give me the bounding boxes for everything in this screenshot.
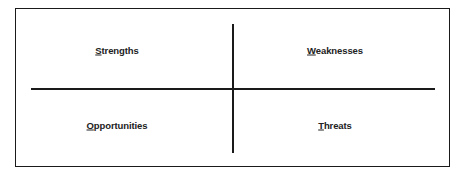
- quadrant-label-rest: eaknesses: [316, 45, 363, 56]
- quadrant-strengths: Strengths: [95, 45, 138, 56]
- quadrant-weaknesses: Weaknesses: [307, 45, 363, 56]
- access-key-w: W: [307, 45, 316, 56]
- quadrant-label-rest: trengths: [102, 45, 139, 56]
- quadrant-opportunities: Opportunities: [87, 120, 148, 131]
- quadrant-threats: Threats: [318, 120, 352, 131]
- horizontal-divider: [31, 88, 435, 90]
- quadrant-label-rest: hreats: [324, 120, 352, 131]
- quadrant-label-rest: pportunities: [94, 120, 148, 131]
